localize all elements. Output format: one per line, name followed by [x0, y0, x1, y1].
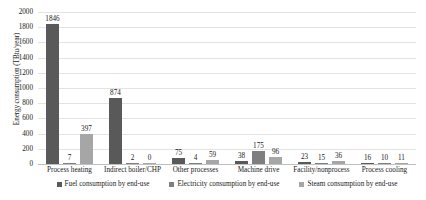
- y-axis-tick: 0: [29, 161, 33, 168]
- bar-value-label: 4: [194, 154, 198, 162]
- legend-label: Electricity consumption by end-use: [177, 180, 279, 188]
- bar-slot: 15: [315, 12, 328, 164]
- bar[interactable]: [252, 151, 265, 164]
- bar-slot: 36: [332, 12, 345, 164]
- y-axis-tick: 1800: [19, 24, 33, 31]
- x-axis-label-5: Process cooling: [353, 166, 416, 174]
- y-axis-tick: 600: [22, 115, 33, 122]
- bar[interactable]: [143, 163, 156, 165]
- y-axis-tick: 1400: [19, 54, 33, 61]
- bar[interactable]: [395, 163, 408, 165]
- bar-value-label: 36: [335, 152, 342, 160]
- bar-value-label: 874: [110, 89, 121, 97]
- bar-slot: 1846: [46, 12, 59, 164]
- bar-value-label: 16: [364, 154, 371, 162]
- bar-value-label: 38: [238, 152, 245, 160]
- y-axis-tick: 1600: [19, 39, 33, 46]
- bar-value-label: 11: [398, 154, 405, 162]
- legend-swatch-icon: [169, 182, 174, 187]
- x-axis-label-3: Machine drive: [227, 166, 290, 174]
- bar-value-label: 96: [272, 148, 279, 156]
- bar-slot: 2: [126, 12, 139, 164]
- bar[interactable]: [80, 134, 93, 164]
- bar-group: 3817596: [227, 12, 290, 164]
- bar[interactable]: [63, 163, 76, 165]
- bar[interactable]: [378, 163, 391, 165]
- x-axis-category-labels: Process heatingIndirect boiler/CHPOther …: [38, 166, 416, 174]
- bar-value-label: 175: [253, 142, 264, 150]
- bar-group: 75459: [164, 12, 227, 164]
- bar-value-label: 2: [131, 154, 135, 162]
- gridline: [38, 164, 416, 165]
- y-axis-tick-labels: 0200400600800100012001400160018002000: [0, 12, 36, 164]
- bar-chart: Energy consumption (TBtu/year) 020040060…: [0, 0, 426, 200]
- legend-item[interactable]: Steam consumption by end-use: [299, 180, 397, 188]
- x-axis-label-1: Indirect boiler/CHP: [101, 166, 164, 174]
- bar-slot: 96: [269, 12, 282, 164]
- legend-label: Steam consumption by end-use: [307, 180, 397, 188]
- bar-slot: 11: [395, 12, 408, 164]
- x-axis-label-4: Facility/nonprocess: [290, 166, 353, 174]
- bar[interactable]: [361, 163, 374, 165]
- bar[interactable]: [235, 161, 248, 164]
- bar-slot: 0: [143, 12, 156, 164]
- bar-group: 231536: [290, 12, 353, 164]
- bar[interactable]: [189, 163, 202, 165]
- bar-slot: 23: [298, 12, 311, 164]
- y-axis-tick: 1000: [19, 85, 33, 92]
- bar-slot: 10: [378, 12, 391, 164]
- legend-swatch-icon: [299, 182, 304, 187]
- bar-slot: 397: [80, 12, 93, 164]
- bar[interactable]: [269, 157, 282, 164]
- y-axis-tick: 1200: [19, 69, 33, 76]
- x-axis-label-2: Other processes: [164, 166, 227, 174]
- bar-slot: 7: [63, 12, 76, 164]
- y-axis-tick: 800: [22, 100, 33, 107]
- bar-value-label: 23: [301, 153, 308, 161]
- bar[interactable]: [332, 161, 345, 164]
- bar[interactable]: [46, 24, 59, 164]
- bar-group: 161011: [353, 12, 416, 164]
- bar-group: 87420: [101, 12, 164, 164]
- legend-item[interactable]: Electricity consumption by end-use: [169, 180, 279, 188]
- bar[interactable]: [206, 160, 219, 164]
- bar-value-label: 1846: [45, 15, 59, 23]
- bar-slot: 38: [235, 12, 248, 164]
- bar-slot: 874: [109, 12, 122, 164]
- legend-label: Fuel consumption by end-use: [65, 180, 150, 188]
- bar-slot: 175: [252, 12, 265, 164]
- y-axis-tick: 400: [22, 130, 33, 137]
- bar[interactable]: [172, 158, 185, 164]
- legend-swatch-icon: [57, 182, 62, 187]
- legend-item[interactable]: Fuel consumption by end-use: [57, 180, 150, 188]
- bar-slot: 4: [189, 12, 202, 164]
- bar-value-label: 397: [81, 125, 92, 133]
- y-axis-tick: 200: [22, 145, 33, 152]
- bar-slot: 16: [361, 12, 374, 164]
- bar-group: 18467397: [38, 12, 101, 164]
- y-axis-tick: 2000: [19, 9, 33, 16]
- bar-value-label: 59: [209, 151, 216, 159]
- bar-value-label: 75: [175, 149, 182, 157]
- bar-slot: 75: [172, 12, 185, 164]
- bar[interactable]: [126, 163, 139, 165]
- plot-area: 1846739787420754593817596231536161011: [38, 12, 416, 164]
- bar-value-label: 0: [148, 154, 152, 162]
- chart-legend: Fuel consumption by end-useElectricity c…: [38, 180, 416, 188]
- bar[interactable]: [298, 162, 311, 164]
- bar-value-label: 10: [381, 154, 388, 162]
- bar-groups: 1846739787420754593817596231536161011: [38, 12, 416, 164]
- bar-value-label: 15: [318, 154, 325, 162]
- bar[interactable]: [109, 98, 122, 164]
- x-axis-label-0: Process heating: [38, 166, 101, 174]
- bar-slot: 59: [206, 12, 219, 164]
- bar-value-label: 7: [68, 154, 72, 162]
- bar[interactable]: [315, 163, 328, 165]
